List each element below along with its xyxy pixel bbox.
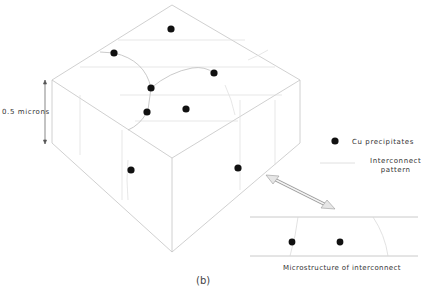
panel-label: (b) xyxy=(196,275,210,286)
inset-caption: Microstructure of interconnect xyxy=(283,264,401,272)
interconnect-curves xyxy=(100,52,214,130)
thickness-label: 0.5 microns xyxy=(2,108,50,116)
legend-label-line2: pattern xyxy=(370,166,421,175)
precipitate-dot xyxy=(210,69,217,76)
precipitate-dot xyxy=(182,105,189,112)
legend-label-cu-precipitates: Cu precipitates xyxy=(352,138,414,146)
precipitate-dot xyxy=(289,239,296,246)
precipitate-dot xyxy=(110,49,117,56)
precipitate-dot xyxy=(234,164,241,171)
inset-microstructure xyxy=(250,217,418,256)
precipitate-dot xyxy=(127,166,134,173)
block-outline xyxy=(52,5,300,252)
interconnect-pattern xyxy=(80,40,282,200)
precipitate-dot xyxy=(147,84,154,91)
legend-label-interconnect-pattern: Interconnect pattern xyxy=(370,157,421,175)
figure-canvas: 0.5 microns Cu precipitates Interconnect… xyxy=(0,0,421,290)
precipitate-dot xyxy=(337,239,344,246)
legend-label-line1: Interconnect xyxy=(370,157,421,166)
legend-dot-icon xyxy=(331,137,338,144)
block-precipitates xyxy=(110,25,241,173)
precipitate-dot xyxy=(167,25,174,32)
double-arrow-icon xyxy=(266,175,335,209)
precipitate-dot xyxy=(143,108,150,115)
